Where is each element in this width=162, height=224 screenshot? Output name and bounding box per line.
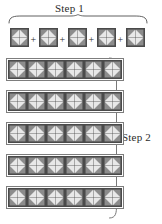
- pinwheel-block: [103, 188, 122, 207]
- pinwheel-block: [8, 124, 27, 143]
- pinwheel-block: [84, 188, 103, 207]
- pinwheel-block: [46, 60, 65, 79]
- pinwheel-block: [27, 124, 46, 143]
- pinwheel-block: [65, 124, 84, 143]
- step-2-tile-grid: [0, 0, 162, 224]
- pinwheel-block: [46, 188, 65, 207]
- pinwheel-block: [103, 124, 122, 143]
- pinwheel-block: [103, 92, 122, 111]
- pinwheel-quilt-figure: Step 1 ++++ Step 2: [0, 0, 162, 224]
- pinwheel-block: [8, 60, 27, 79]
- pinwheel-block: [84, 60, 103, 79]
- pinwheel-block: [103, 156, 122, 175]
- pinwheel-block: [8, 188, 27, 207]
- pinwheel-block: [84, 92, 103, 111]
- pinwheel-block: [65, 188, 84, 207]
- pinwheel-block: [27, 92, 46, 111]
- step-2-group: Step 2: [0, 0, 162, 224]
- pinwheel-block: [27, 188, 46, 207]
- pinwheel-block: [84, 124, 103, 143]
- pinwheel-block: [84, 156, 103, 175]
- pinwheel-block: [65, 156, 84, 175]
- pinwheel-block: [65, 92, 84, 111]
- pinwheel-block: [46, 156, 65, 175]
- pinwheel-block: [27, 156, 46, 175]
- pinwheel-block: [103, 60, 122, 79]
- pinwheel-block: [46, 92, 65, 111]
- pinwheel-block: [46, 124, 65, 143]
- pinwheel-block: [8, 92, 27, 111]
- pinwheel-block: [65, 60, 84, 79]
- pinwheel-block: [8, 156, 27, 175]
- pinwheel-block: [27, 60, 46, 79]
